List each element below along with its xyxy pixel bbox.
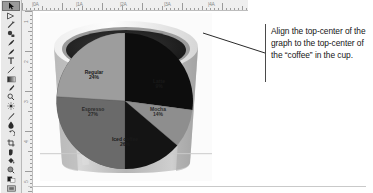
- ruler-tick: [46, 8, 47, 10]
- ruler-tick: [30, 8, 31, 10]
- text-icon: [7, 57, 15, 65]
- tools-palette[interactable]: [1, 0, 22, 193]
- page-divider: [28, 186, 366, 187]
- ruler-tick: [30, 179, 32, 180]
- tool-search-circle[interactable]: [2, 166, 20, 175]
- ruler-tick: [166, 8, 167, 10]
- ruler-tick: [194, 8, 195, 10]
- tool-paint-bucket[interactable]: [2, 157, 20, 166]
- blur-drop-icon: [7, 121, 15, 129]
- pie-slice-regular: [57, 33, 125, 101]
- screenshot-root: |0A|1A|2A|3A|4A 12345: [0, 0, 373, 193]
- ruler-label: |4A: [208, 1, 215, 7]
- tool-crop[interactable]: [2, 138, 20, 147]
- ruler-tick: [66, 8, 67, 10]
- ruler-tick: [30, 135, 32, 136]
- vertical-ruler[interactable]: 12345: [22, 11, 33, 193]
- pie-chart-svg: [49, 25, 201, 177]
- tool-hand[interactable]: [2, 147, 20, 156]
- ruler-tick: [30, 175, 32, 176]
- ruler-tick: [162, 6, 163, 10]
- ruler-tick: [25, 171, 32, 172]
- ruler-tick: [30, 95, 32, 96]
- ruler-tick: [30, 47, 32, 48]
- ruler-tick: [30, 35, 32, 36]
- ruler-tick: [142, 3, 143, 10]
- tool-eyedropper[interactable]: [2, 84, 20, 93]
- ruler-tick: [170, 8, 171, 10]
- annotation-rule: [265, 24, 266, 82]
- paint-bucket-icon: [7, 157, 15, 165]
- ruler-tick: [90, 8, 91, 10]
- ruler-tick: [30, 55, 32, 56]
- ruler-tick: [30, 183, 32, 184]
- pie-chart-overlay[interactable]: Regular 24% Latte 9% Mocha 14% Iced coff…: [49, 25, 201, 177]
- move-pointer-icon: [8, 2, 15, 10]
- magic-wand-icon: [7, 21, 15, 29]
- ruler-tick: [30, 187, 32, 188]
- ruler-tick: [186, 8, 187, 10]
- tool-brush[interactable]: [2, 38, 20, 47]
- ruler-tick: [28, 71, 32, 72]
- pie-slice-iced-coffee-2: [57, 97, 125, 169]
- ruler-tick: [30, 15, 32, 16]
- ruler-tick: [30, 115, 32, 116]
- ruler-tick: [30, 23, 32, 24]
- tool-gradient[interactable]: [2, 75, 20, 84]
- tool-move-pointer[interactable]: [2, 1, 20, 11]
- gradient-icon: [7, 76, 16, 83]
- ruler-tick: [30, 63, 32, 64]
- tool-line[interactable]: [2, 66, 20, 75]
- tool-color-swatch[interactable]: [2, 175, 20, 184]
- document-canvas[interactable]: Regular 24% Latte 9% Mocha 14% Iced coff…: [33, 11, 248, 193]
- ruler-tick: [30, 39, 32, 40]
- ruler-tick: [214, 8, 215, 10]
- search-circle-icon: [7, 166, 15, 174]
- annotation-text: Align the top-center of the graph to the…: [271, 25, 371, 62]
- tool-lasso[interactable]: [2, 11, 20, 20]
- tool-magic-wand[interactable]: [2, 20, 20, 29]
- ruler-label: |3A: [164, 1, 171, 7]
- brush-icon: [7, 39, 15, 47]
- horizontal-ruler[interactable]: |0A|1A|2A|3A|4A: [22, 0, 248, 11]
- tool-screen-mode[interactable]: [2, 184, 20, 193]
- ruler-tick: [30, 159, 32, 160]
- ruler-tick: [70, 8, 71, 10]
- tool-blur[interactable]: [2, 120, 20, 129]
- ruler-label: 3: [23, 100, 29, 103]
- ruler-tick: [102, 3, 103, 10]
- ruler-tick: [30, 59, 32, 60]
- ruler-tick: [74, 8, 75, 10]
- ruler-tick: [222, 3, 223, 10]
- ruler-tick: [30, 139, 32, 140]
- ruler-tick: [218, 8, 219, 10]
- tool-undo[interactable]: [2, 129, 20, 138]
- tool-pen[interactable]: [2, 111, 20, 120]
- annotation-panel: Align the top-center of the graph to the…: [248, 0, 373, 193]
- zoom-icon: [7, 93, 15, 101]
- ruler-tick: [30, 127, 32, 128]
- ruler-tick: [30, 19, 32, 20]
- tool-sun-dodge[interactable]: [2, 102, 20, 111]
- sun-icon: [7, 102, 15, 110]
- ruler-tick: [30, 167, 32, 168]
- ruler-tick: [110, 8, 111, 10]
- tool-zoom[interactable]: [2, 93, 20, 102]
- ruler-tick: [50, 8, 51, 10]
- pen-icon: [7, 112, 15, 120]
- ruler-tick: [30, 83, 32, 84]
- ruler-tick: [126, 8, 127, 10]
- tool-text[interactable]: [2, 56, 20, 65]
- ruler-tick: [226, 8, 227, 10]
- crop-icon: [7, 139, 15, 147]
- swatch-icon: [7, 176, 16, 183]
- ruler-tick: [198, 8, 199, 10]
- tool-eraser[interactable]: [2, 47, 20, 56]
- ruler-tick: [114, 8, 115, 10]
- ruler-tick: [246, 8, 247, 10]
- tool-stamp[interactable]: [2, 29, 20, 38]
- ruler-label: |1A: [76, 1, 83, 7]
- hand-icon: [7, 148, 15, 156]
- ruler-tick: [22, 3, 23, 10]
- ruler-tick: [28, 31, 32, 32]
